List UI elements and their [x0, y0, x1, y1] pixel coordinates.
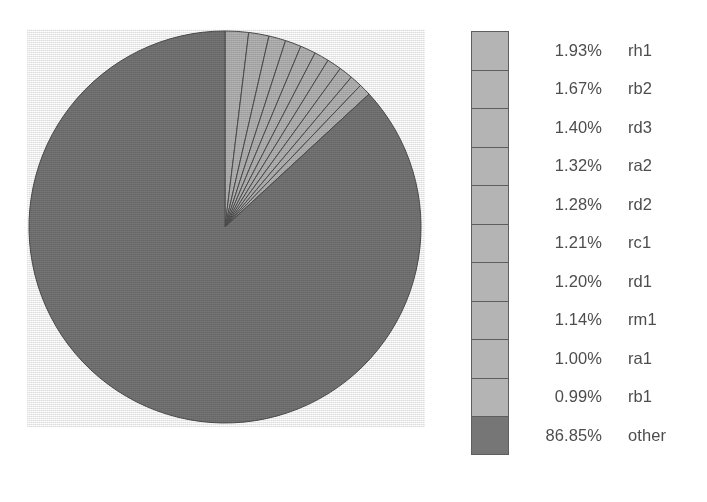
legend-label-rb1: rb1	[602, 387, 701, 406]
legend-swatch-rh1	[471, 31, 509, 70]
legend-value-rd3: 1.40%	[509, 118, 602, 137]
legend-row: 86.85% other	[471, 416, 701, 455]
legend-row: 1.28% rd2	[471, 185, 701, 224]
legend-value-rc1: 1.21%	[509, 233, 602, 252]
legend-row: 1.40% rd3	[471, 108, 701, 147]
chart-legend: 1.93% rh1 1.67% rb2 1.40% rd3 1.32% ra2 …	[471, 31, 701, 455]
legend-swatch-rd1	[471, 262, 509, 301]
legend-label-rd3: rd3	[602, 118, 701, 137]
legend-label-ra1: ra1	[602, 349, 701, 368]
pie-slice-group	[29, 31, 421, 423]
legend-row: 0.99% rb1	[471, 378, 701, 417]
legend-swatch-rm1	[471, 301, 509, 340]
legend-label-rd1: rd1	[602, 272, 701, 291]
legend-label-ra2: ra2	[602, 156, 701, 175]
legend-label-rb2: rb2	[602, 79, 701, 98]
legend-swatch-rb2	[471, 70, 509, 109]
legend-label-other: other	[602, 426, 701, 445]
legend-label-rh1: rh1	[602, 41, 701, 60]
legend-value-rb2: 1.67%	[509, 79, 602, 98]
pie-chart-figure: 1.93% rh1 1.67% rb2 1.40% rd3 1.32% ra2 …	[0, 0, 707, 502]
legend-row: 1.21% rc1	[471, 224, 701, 263]
legend-row: 1.20% rd1	[471, 262, 701, 301]
legend-row: 1.00% ra1	[471, 339, 701, 378]
legend-swatch-other	[471, 416, 509, 455]
legend-value-rh1: 1.93%	[509, 41, 602, 60]
legend-value-ra2: 1.32%	[509, 156, 602, 175]
legend-value-rm1: 1.14%	[509, 310, 602, 329]
pie-chart-plot-area	[27, 29, 425, 427]
legend-swatch-ra1	[471, 339, 509, 378]
legend-swatch-rb1	[471, 378, 509, 417]
legend-value-rd1: 1.20%	[509, 272, 602, 291]
legend-label-rd2: rd2	[602, 195, 701, 214]
legend-label-rc1: rc1	[602, 233, 701, 252]
legend-value-other: 86.85%	[509, 426, 602, 445]
legend-value-ra1: 1.00%	[509, 349, 602, 368]
legend-swatch-ra2	[471, 147, 509, 186]
legend-row: 1.32% ra2	[471, 147, 701, 186]
legend-value-rd2: 1.28%	[509, 195, 602, 214]
legend-row: 1.67% rb2	[471, 70, 701, 109]
legend-swatch-rd3	[471, 108, 509, 147]
legend-swatch-rc1	[471, 224, 509, 263]
legend-row: 1.93% rh1	[471, 31, 701, 70]
legend-row: 1.14% rm1	[471, 301, 701, 340]
legend-label-rm1: rm1	[602, 310, 701, 329]
legend-swatch-rd2	[471, 185, 509, 224]
legend-value-rb1: 0.99%	[509, 387, 602, 406]
pie-svg	[27, 29, 425, 427]
